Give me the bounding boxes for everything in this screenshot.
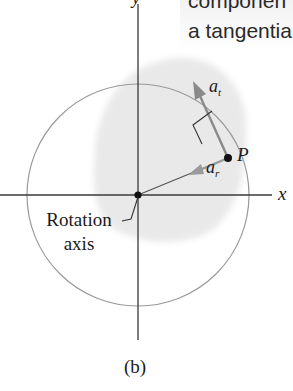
radial-acceleration-label: ar	[206, 157, 219, 178]
rotation-axis-label-line-1: Rotation	[33, 208, 125, 232]
rotation-axis-label: Rotation axis	[33, 208, 125, 256]
x-axis-label: x	[278, 183, 286, 205]
top-caption-line-2: a tangentia	[188, 19, 292, 42]
rotation-diagram: componen a tangentia y x at P ar Rotatio…	[0, 0, 293, 391]
diagram-canvas	[0, 0, 293, 391]
point-p	[224, 154, 232, 162]
tangential-acceleration-label: at	[209, 76, 221, 97]
at-symbol: a	[209, 76, 218, 96]
rotation-axis-label-line-2: axis	[33, 232, 125, 256]
point-p-label: P	[237, 144, 249, 166]
ar-subscript: r	[215, 167, 219, 179]
top-caption-text: componen a tangentia	[188, 0, 292, 46]
top-caption-line-1: componen	[188, 0, 286, 12]
ar-symbol: a	[206, 157, 215, 177]
y-axis-label: y	[132, 0, 140, 9]
panel-label: (b)	[124, 356, 146, 378]
at-subscript: t	[218, 86, 221, 98]
panel-label-text: (b)	[124, 356, 146, 377]
